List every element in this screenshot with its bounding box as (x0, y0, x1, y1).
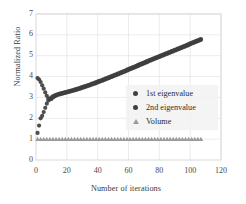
data-point (42, 110, 46, 114)
circle-marker-icon (133, 91, 138, 96)
chart-figure: Normalized Ratio Number of iterations 01… (0, 0, 246, 204)
triangle-marker-icon (133, 119, 139, 124)
circle-marker-icon (133, 105, 138, 110)
data-point (43, 106, 47, 110)
data-point (42, 87, 46, 91)
chart-legend: 1st eigenvalue 2nd eigenvalue Volume (126, 85, 218, 130)
legend-label: 2nd eigenvalue (146, 101, 196, 115)
data-point (40, 114, 44, 118)
data-point (35, 131, 39, 135)
legend-label: 1st eigenvalue (146, 87, 193, 101)
data-point (199, 37, 203, 41)
data-point (37, 123, 41, 127)
legend-label: Volume (146, 115, 171, 129)
